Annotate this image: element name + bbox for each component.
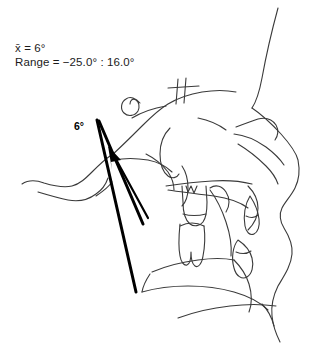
cephalometric-figure: x̄ = 6° Range = −25.0° : 16.0° 6°: [0, 0, 327, 345]
measurement-line-constructed: [97, 120, 136, 292]
sphenoid-cross-mark-vertical-2: [184, 78, 186, 103]
maxilla-outline: [168, 190, 248, 208]
palatal-plane: [166, 181, 252, 186]
sphenoid-cross-mark-vertical-1: [176, 79, 178, 104]
angle-measurement-label: 6°: [74, 120, 84, 132]
upper-lip-outline: [238, 144, 278, 184]
nasal-tip-detail: [236, 118, 278, 140]
ethmoid-region: [198, 118, 226, 130]
submental-line: [178, 305, 276, 319]
frontal-bone-outline: [252, 8, 278, 108]
mandible-body-superior: [152, 259, 234, 273]
mandible-ramus: [210, 190, 231, 256]
lower-incisor: [233, 240, 253, 278]
statistics-block: x̄ = 6° Range = −25.0° : 16.0°: [15, 41, 134, 69]
posterior-ramus-border: [96, 182, 112, 196]
sella-turcica: [122, 98, 140, 116]
measurement-line-reference: [99, 121, 143, 224]
condyle-outline: [210, 186, 229, 212]
occipital-outline: [22, 156, 110, 187]
sphenoid-cross-mark-horizontal: [168, 86, 199, 88]
mean-value-text: x̄ = 6°: [15, 41, 134, 55]
cervical-vertebrae-outline: [38, 178, 108, 201]
mandible-inferior-border: [142, 286, 268, 310]
range-value-text: Range = −25.0° : 16.0°: [15, 55, 134, 69]
upper-molar-neck: [183, 214, 206, 216]
gonial-angle: [142, 274, 150, 292]
